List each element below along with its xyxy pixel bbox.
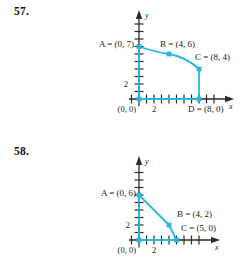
y-axis-label-58: y [144,157,149,166]
point-A-58 [137,193,142,198]
label-point-B-58: B = (4, 2) [177,209,212,219]
point-origin-57 [137,97,142,102]
figure-57: 57. [0,0,249,140]
label-point-C-57: C = (8, 4) [195,52,230,62]
x-axis-label-58: x [214,243,219,252]
label-point-C-58: C = (5, 0) [181,223,216,233]
graph-58: y x 2 2 A = (0, 6) B = (4, 2) C = (5, 0)… [0,140,249,279]
x-axis-ticks-58 [132,236,200,248]
y-tick-label-2-58: 2 [126,220,130,230]
y-axis-label-57: y [144,11,149,20]
y-tick-label-2-57: 2 [124,79,128,89]
figure-58: 58. [0,140,249,279]
point-A-57 [137,44,142,49]
point-C-58 [174,238,179,243]
point-origin-58 [137,238,142,243]
label-origin-58: (0, 0) [118,245,137,255]
x-tick-label-2-58: 2 [152,245,156,255]
point-C-57 [197,67,202,72]
label-point-A-58: A = (0, 6) [101,188,136,198]
point-D-57 [197,97,202,102]
x-axis-label-57: x [228,102,233,111]
y-axis-arrowhead-58 [136,156,142,165]
label-origin-57: (0, 0) [118,104,137,114]
point-B-57 [167,52,172,57]
x-tick-label-2-57: 2 [152,104,156,114]
label-point-B-57: B = (4, 6) [160,39,195,49]
label-point-D-57: D = (8, 0) [188,104,224,114]
polyline-path-58 [139,195,177,240]
graph-57: y x 2 2 A = (0, 7) B = (4, 6) C = (8, 4)… [0,0,249,140]
label-point-A-57: A = (0, 7) [99,39,134,49]
point-B-58 [167,223,172,228]
y-axis-arrowhead-57 [136,10,142,19]
